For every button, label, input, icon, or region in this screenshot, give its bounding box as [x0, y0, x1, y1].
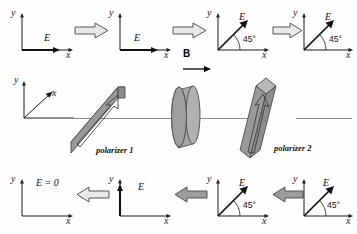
- polarizer-2-label: polarizer 2: [274, 144, 312, 153]
- propagation-arrow-forward-1: [74, 22, 110, 39]
- panel-backward-3: y E 45° x: [210, 170, 272, 222]
- faraday-rotator[interactable]: [166, 80, 212, 156]
- field-label-b2: E: [138, 182, 144, 192]
- polarizer-2[interactable]: polarizer 2: [228, 72, 314, 164]
- axis-label-y-apparatus: y: [14, 75, 18, 85]
- axis-label-x-f1: x: [66, 50, 70, 60]
- panel-backward-4: y E 45° x: [296, 170, 356, 222]
- field-vector-f1: [22, 47, 60, 53]
- panel-forward-1: y E x: [14, 6, 74, 56]
- angle-label-b4: 45°: [327, 201, 340, 210]
- field-label-b4: E: [323, 178, 329, 188]
- axis-label-y-f4: y: [293, 8, 297, 18]
- figure-canvas: y E x y E x: [0, 0, 357, 234]
- field-label-b1: E = 0: [36, 178, 59, 188]
- field-label-b3: E: [239, 178, 245, 188]
- panel-backward-2: y E x: [112, 170, 174, 222]
- axis-label-x-b2: x: [164, 216, 168, 226]
- angle-label-f3: 45°: [243, 35, 256, 44]
- angle-arc-b3: [234, 201, 241, 217]
- axes-f2: [118, 13, 171, 52]
- polarizer-1-label: polarizer 1: [96, 146, 134, 155]
- panel-forward-4: y E 45° x: [296, 6, 356, 56]
- angle-arc-f4: [320, 35, 327, 51]
- axis-label-y-f2: y: [109, 8, 113, 18]
- b-field-indicator: B: [182, 58, 216, 74]
- axis-label-x-f2: x: [164, 50, 168, 60]
- polarizer-1-side-face: [118, 87, 125, 98]
- panel-backward-1: y E = 0 x: [14, 170, 76, 222]
- axis-label-y-b1: y: [11, 174, 15, 184]
- axis-label-x-b3: x: [262, 216, 266, 226]
- propagation-arrow-backward-2: [174, 186, 208, 203]
- field-vector-f2: [120, 47, 158, 53]
- axis-label-y-b3: y: [207, 174, 211, 184]
- axis-label-x-f3: x: [262, 50, 266, 60]
- panel-forward-2: y E x: [112, 6, 172, 56]
- angle-label-f4: 45°: [329, 35, 342, 44]
- panel-forward-3: y E 45° x: [210, 6, 272, 56]
- field-vector-b2: [117, 184, 123, 216]
- propagation-arrow-backward-1: [76, 186, 110, 203]
- field-label-f2: E: [134, 33, 140, 43]
- axes-b2: [118, 179, 171, 218]
- axis-label-y-b2: y: [109, 174, 113, 184]
- field-label-f1: E: [44, 33, 50, 43]
- angle-arc-f3: [234, 35, 241, 51]
- angle-arc-b4: [320, 201, 327, 217]
- axis-label-x-b1: x: [66, 216, 70, 226]
- propagation-arrow-forward-2: [172, 22, 208, 39]
- axis-label-y-f1: y: [11, 8, 15, 18]
- field-label-f3: E: [239, 12, 245, 22]
- angle-label-b3: 45°: [243, 201, 256, 210]
- axis-label-y-b4: y: [293, 174, 297, 184]
- axis-label-y-f3: y: [207, 8, 211, 18]
- field-label-f4: E: [325, 12, 331, 22]
- axis-label-x-b4: x: [346, 216, 350, 226]
- polarizer-1[interactable]: polarizer 1: [56, 76, 136, 158]
- b-field-label: B: [183, 49, 190, 59]
- axis-label-x-f4: x: [346, 50, 350, 60]
